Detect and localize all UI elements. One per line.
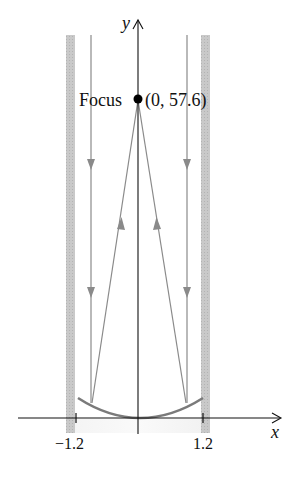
arrow-up-icon [117,217,125,230]
x-tick-label-left: −1.2 [55,435,84,452]
parabolic-reflector-diagram: y x Focus (0, 57.6) −1.2 1.2 [0,0,306,483]
reflected-ray-left [92,100,138,403]
arrow-down-icon [87,287,95,298]
reflected-ray-right [138,100,186,403]
focus-point [134,95,143,104]
y-axis [133,20,143,434]
focus-label: Focus [79,90,122,110]
arrow-down-icon [183,159,191,170]
y-axis-label: y [120,13,130,33]
left-wall [66,35,75,433]
x-axis-label: x [270,422,279,442]
parabola-curve [78,398,203,418]
arrow-down-icon [183,287,191,298]
focus-coordinates: (0, 57.6) [145,90,207,111]
arrow-down-icon [87,159,95,170]
arrow-up-icon [153,217,161,230]
x-tick-label-right: 1.2 [193,435,213,452]
